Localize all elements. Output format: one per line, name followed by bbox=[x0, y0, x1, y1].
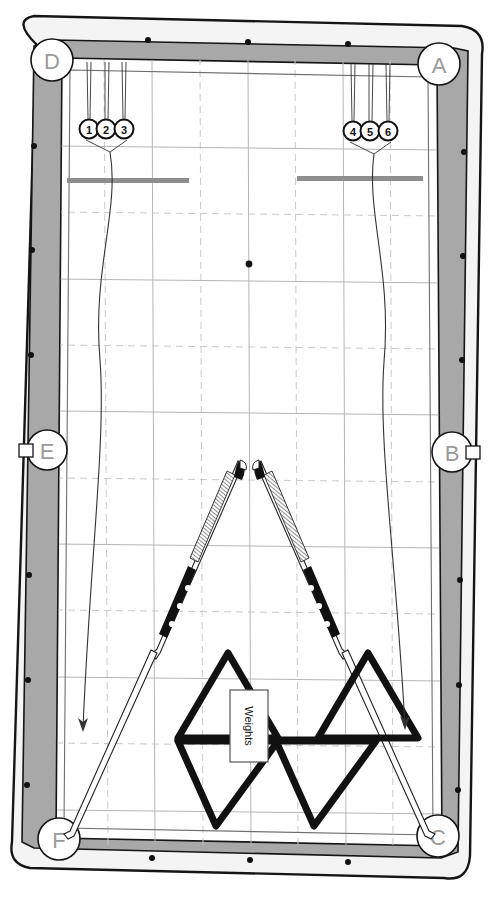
pocket-D-label: D bbox=[44, 49, 60, 74]
pocket-B-label: B bbox=[445, 441, 460, 466]
ball-marker-2[interactable]: 2 bbox=[97, 120, 116, 139]
ball-marker-6[interactable]: 6 bbox=[379, 122, 398, 141]
left-grey-bar bbox=[67, 178, 189, 183]
ball-marker-5[interactable]: 5 bbox=[361, 122, 380, 141]
ball-marker-4-label: 4 bbox=[350, 126, 357, 138]
weights-label: Weights bbox=[243, 706, 255, 746]
pocket-E-label: E bbox=[40, 439, 55, 464]
ball-marker-6-label: 6 bbox=[385, 126, 391, 138]
pocket-A-label: A bbox=[432, 53, 447, 78]
weights-box[interactable]: Weights bbox=[230, 690, 268, 762]
ball-marker-2-label: 2 bbox=[103, 124, 109, 136]
ball-marker-5-label: 5 bbox=[367, 126, 373, 138]
center-spot bbox=[246, 261, 253, 268]
pool-table-diagram: D A E B F C bbox=[0, 0, 498, 909]
pocket-D[interactable]: D bbox=[31, 39, 73, 81]
pocket-F-label: F bbox=[52, 828, 65, 853]
diagram-canvas: D A E B F C bbox=[0, 0, 498, 909]
ball-marker-3[interactable]: 3 bbox=[115, 120, 134, 139]
ball-marker-3-label: 3 bbox=[121, 124, 127, 136]
pocket-A[interactable]: A bbox=[418, 43, 460, 85]
ball-marker-1-label: 1 bbox=[86, 124, 92, 136]
right-grey-bar bbox=[297, 176, 423, 181]
